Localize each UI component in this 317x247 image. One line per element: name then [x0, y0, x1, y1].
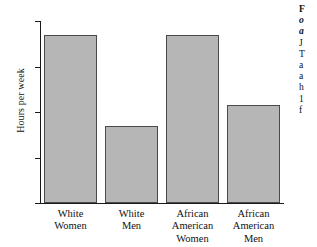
caption-line: o — [299, 14, 317, 25]
caption-line: 1 — [299, 93, 317, 104]
x-tick-label: African American Women — [162, 208, 223, 245]
caption-line: a — [299, 59, 317, 70]
y-tick-mark — [35, 67, 40, 68]
y-axis-title: Hours per week — [15, 51, 26, 151]
x-tick-label: African American Men — [223, 208, 284, 245]
figure-page: Hours per week 010203040White WomenWhite… — [0, 0, 317, 247]
x-tick-label: White Women — [40, 208, 101, 233]
bar — [44, 35, 97, 203]
bar — [166, 35, 219, 203]
plot-area: 010203040White WomenWhite MenAfrican Ame… — [40, 21, 284, 203]
caption-line: a — [299, 25, 317, 36]
caption-line: F — [299, 3, 317, 14]
bar-chart-figure: Hours per week 010203040White WomenWhite… — [0, 0, 290, 247]
caption-line: J — [299, 37, 317, 48]
caption-line: h — [299, 81, 317, 92]
x-tick-label: White Men — [101, 208, 162, 233]
bar — [105, 126, 158, 203]
y-axis-line — [40, 21, 41, 203]
bar — [227, 105, 280, 203]
figure-caption: FoaJTaah1f — [299, 3, 317, 115]
caption-line: f — [299, 104, 317, 115]
y-tick-mark — [35, 21, 40, 22]
caption-line: T — [299, 48, 317, 59]
y-tick-mark — [35, 203, 40, 204]
y-tick-mark — [35, 112, 40, 113]
x-axis-line — [40, 203, 284, 204]
y-tick-mark — [35, 158, 40, 159]
caption-line: a — [299, 70, 317, 81]
